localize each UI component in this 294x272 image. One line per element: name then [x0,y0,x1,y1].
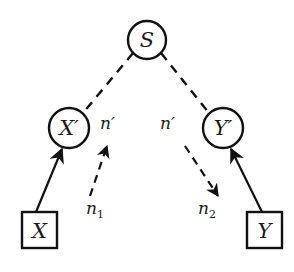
edge-y-to-yprime [231,149,262,212]
label-n-prime-left: n′ [100,113,115,133]
flow-n1-to-nprime [90,146,107,196]
node-xprime-label: X′ [57,116,79,140]
label-n1-sub: 1 [97,208,104,221]
node-yprime: Y′ [203,108,243,148]
edge-s-to-xprime [83,53,133,113]
node-x: X [22,212,57,248]
diagram-canvas: S X′ Y′ X Y n′ n′ n1 n2 [0,0,294,272]
label-n2-base: n [198,198,209,218]
node-y: Y [247,212,282,248]
node-xprime: X′ [49,108,89,148]
label-n2-sub: 2 [209,208,216,221]
label-n1: n1 [86,198,104,221]
node-yprime-label: Y′ [214,116,233,140]
node-x-label: X [30,219,48,243]
edge-x-to-xprime [36,149,62,212]
flow-nprime-to-n2 [185,146,218,196]
node-s: S [128,21,166,59]
label-n2: n2 [198,198,216,221]
label-n1-base: n [86,198,97,218]
node-s-label: S [140,28,154,52]
edge-s-to-yprime [161,53,209,113]
label-n-prime-right: n′ [160,113,175,133]
node-y-label: Y [258,219,274,243]
